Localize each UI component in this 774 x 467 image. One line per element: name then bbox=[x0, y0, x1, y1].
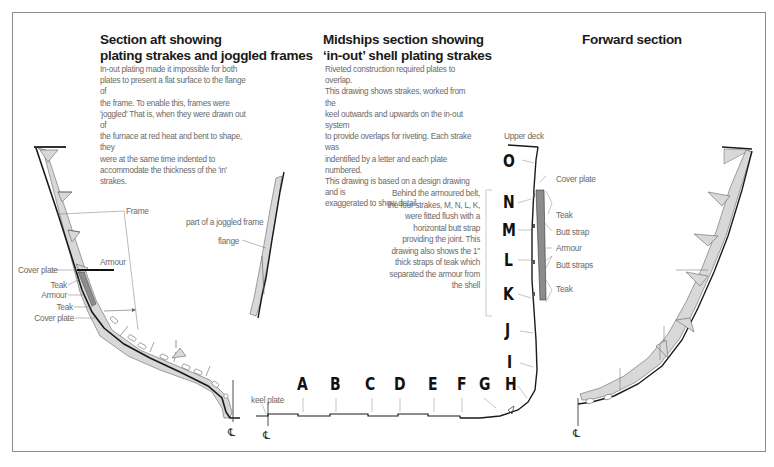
forward-centreline-symbol: ℄ bbox=[573, 428, 580, 440]
label-teak-upper: Teak bbox=[40, 280, 67, 290]
forward-section-title: Forward section bbox=[582, 32, 682, 48]
strake-H: H bbox=[505, 375, 517, 393]
label-teak-lower: Teak bbox=[48, 302, 73, 312]
aft-description-line: were at the same time indented to bbox=[100, 154, 250, 165]
strake-I: I bbox=[507, 353, 512, 371]
forward-section-drawing bbox=[578, 147, 752, 426]
belt-note-line: were fitted flush with a bbox=[376, 211, 480, 223]
label-flange: flange bbox=[218, 236, 239, 246]
midships-description-line: indentified by a letter and each plate n… bbox=[325, 154, 475, 176]
midships-title-line2: ‘in-out’ shell plating strakes bbox=[323, 48, 492, 64]
strake-N: N bbox=[503, 193, 515, 211]
strake-C: C bbox=[365, 375, 375, 393]
label-armour-belt: Armour bbox=[556, 243, 582, 253]
strake-D: D bbox=[394, 375, 406, 393]
label-butt-strap: Butt strap bbox=[556, 227, 589, 237]
label-butt-straps: Butt straps bbox=[556, 260, 593, 270]
aft-description-line: the furnace at red heat and bent to shap… bbox=[100, 131, 250, 153]
label-teak-belt-upper: Teak bbox=[556, 210, 573, 220]
strake-A: A bbox=[297, 375, 308, 393]
strake-E: E bbox=[428, 375, 438, 393]
belt-note-line: thick straps of teak which bbox=[376, 257, 480, 269]
midships-description-line: keel outwards and upwards on the in-out … bbox=[325, 109, 475, 131]
belt-note-line: providing the joint. This bbox=[376, 234, 480, 246]
aft-section-title-line2: plating strakes and joggled frames bbox=[100, 48, 313, 64]
aft-description-line: In-out plating made it impossible for bo… bbox=[100, 64, 250, 75]
joggled-frame-detail-drawing bbox=[242, 172, 284, 318]
label-armour-top: Armour bbox=[100, 257, 126, 267]
midships-title-line1: Midships section showing bbox=[323, 32, 484, 48]
aft-description-line: 'joggled' That is, when they were drawn … bbox=[100, 109, 250, 131]
aft-section-title-line1: Section aft showing bbox=[100, 32, 222, 48]
aft-description-line: accommodate the thickness of the 'in' st… bbox=[100, 165, 250, 187]
midships-description-line: This drawing shows strakes, worked from … bbox=[325, 86, 475, 108]
belt-note-line: the shell bbox=[376, 280, 480, 292]
aft-description-line: the frame. To enable this, frames were bbox=[100, 98, 250, 109]
midships-centreline-symbol: ℄ bbox=[263, 430, 270, 442]
label-keel-plate: keel plate bbox=[251, 395, 284, 405]
label-teak-belt-lower: Teak bbox=[556, 284, 573, 294]
label-joggled-frame: part of a joggled frame bbox=[186, 217, 263, 227]
label-frame: Frame bbox=[126, 206, 149, 216]
aft-section-description: In-out plating made it impossible for bo… bbox=[100, 64, 250, 187]
label-cover-plate-lower: Cover plate bbox=[26, 313, 74, 323]
label-upper-deck: Upper deck bbox=[504, 131, 544, 141]
strake-M: M bbox=[502, 221, 516, 239]
belt-note-line: Behind the armoured belt, bbox=[376, 188, 480, 200]
midships-description-line: Riveted construction required plates to … bbox=[325, 64, 475, 86]
belt-note-line: horizontal butt strap bbox=[376, 223, 480, 235]
label-cover-plate-belt: Cover plate bbox=[556, 174, 596, 184]
midships-description-line: to provide overlaps for riveting. Each s… bbox=[325, 131, 475, 153]
strake-O: O bbox=[503, 152, 515, 170]
strake-J: J bbox=[505, 321, 510, 339]
belt-note-line: separated the armour from bbox=[376, 269, 480, 281]
strake-B: B bbox=[330, 375, 341, 393]
strake-L: L bbox=[504, 251, 513, 269]
strake-F: F bbox=[457, 375, 467, 393]
armoured-belt-note: Behind the armoured belt, the four strak… bbox=[376, 188, 480, 292]
belt-note-line: drawing also shows the 1" bbox=[376, 246, 480, 258]
belt-note-line: the four strakes, M, N, L, K, bbox=[376, 200, 480, 212]
aft-description-line: plates to present a flat surface to the … bbox=[100, 75, 250, 97]
label-cover-plate-upper: Cover plate bbox=[18, 265, 52, 275]
label-armour-side: Armour bbox=[30, 290, 67, 300]
aft-centreline-symbol: ℄ bbox=[228, 427, 235, 439]
strake-K: K bbox=[503, 285, 514, 303]
strake-G: G bbox=[479, 375, 490, 393]
